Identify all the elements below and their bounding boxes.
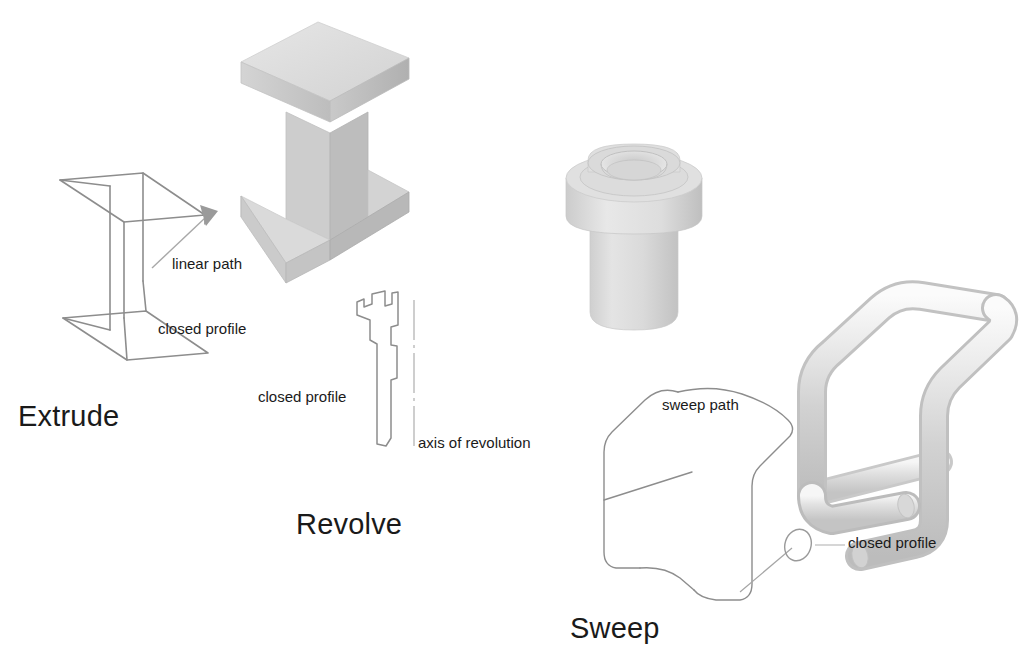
annotation-sweep-closed-profile: closed profile bbox=[848, 534, 936, 551]
operation-title-extrude: Extrude bbox=[18, 400, 119, 433]
annotation-axis-of-revolution: axis of revolution bbox=[418, 434, 531, 451]
annotation-revolve-closed-profile: closed profile bbox=[258, 388, 346, 405]
diagram-canvas bbox=[0, 0, 1036, 658]
operation-title-revolve: Revolve bbox=[296, 508, 402, 541]
revolve-solid-bushing bbox=[566, 144, 702, 330]
sweep-profile-circle-icon bbox=[781, 526, 816, 564]
extrude-solid-i-beam bbox=[241, 22, 409, 283]
annotation-sweep-path: sweep path bbox=[662, 396, 739, 413]
annotation-linear-path: linear path bbox=[172, 255, 242, 272]
revolve-profile-wireframe bbox=[357, 291, 398, 446]
cad-operations-diagram: Extrude Revolve Sweep linear path closed… bbox=[0, 0, 1036, 658]
sweep-closed-profile-marker bbox=[740, 526, 815, 592]
sweep-solid-tube bbox=[812, 295, 1003, 569]
operation-title-sweep: Sweep bbox=[570, 612, 660, 645]
annotation-extrude-closed-profile: closed profile bbox=[158, 320, 246, 337]
sweep-path-wireframe bbox=[604, 388, 793, 600]
